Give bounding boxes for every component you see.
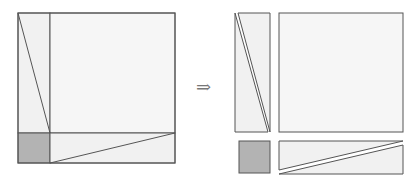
right-figure bbox=[235, 13, 403, 174]
shaded-square-piece bbox=[239, 141, 270, 173]
left-figure bbox=[18, 13, 175, 163]
large-square bbox=[50, 13, 175, 133]
big-square-piece bbox=[279, 13, 403, 132]
implies-arrow-icon: ⇒ bbox=[196, 77, 211, 97]
shaded-small-square bbox=[18, 133, 50, 163]
